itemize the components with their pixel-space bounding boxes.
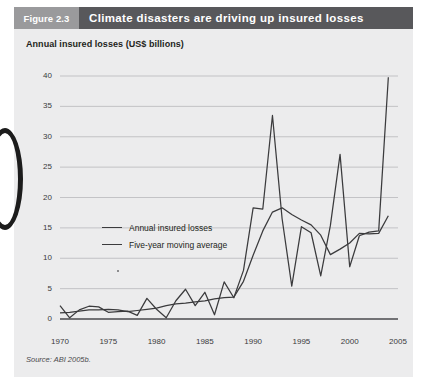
legend-line-swatch (102, 227, 122, 228)
y-axis-tick-label: 30 (30, 132, 52, 141)
chart-gridlines (60, 76, 398, 319)
x-axis-tick-label: 1995 (284, 337, 318, 346)
legend-item-annual: Annual insured losses (102, 219, 227, 236)
legend-line-swatch (102, 244, 122, 245)
x-axis-tick-label: 1970 (43, 337, 77, 346)
y-axis-tick-label: 5 (30, 284, 52, 293)
y-axis-tick-label: 25 (30, 162, 52, 171)
y-axis-tick-label: 0 (30, 314, 52, 323)
x-axis-tick-label: 1975 (91, 337, 125, 346)
x-axis-tick-label: 2000 (333, 337, 367, 346)
legend-item-moving-average: Five-year moving average (102, 236, 227, 253)
x-axis-tick-label: 1985 (188, 337, 222, 346)
x-axis-tick-label: 1990 (236, 337, 270, 346)
y-axis-tick-label: 35 (30, 101, 52, 110)
y-axis-tick-label: 20 (30, 193, 52, 202)
source-note: Source: ABI 2005b. (26, 355, 91, 364)
x-axis-tick-label: 2005 (381, 337, 415, 346)
y-axis-tick-label: 10 (30, 253, 52, 262)
legend-label: Five-year moving average (129, 240, 227, 250)
print-speck (117, 270, 119, 272)
chart-svg (14, 7, 413, 377)
x-axis-tick-label: 1980 (140, 337, 174, 346)
figure-card: Figure 2.3 Climate disasters are driving… (14, 7, 413, 377)
chart-plot-area: 0510152025303540 19701975198019851990199… (14, 7, 413, 377)
y-axis-tick-label: 40 (30, 71, 52, 80)
chart-legend: Annual insured losses Five-year moving a… (102, 219, 227, 253)
y-axis-tick-label: 15 (30, 223, 52, 232)
legend-label: Annual insured losses (129, 223, 212, 233)
